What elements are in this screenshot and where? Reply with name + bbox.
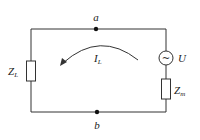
node-a-label: a xyxy=(93,11,99,23)
node-b-label: b xyxy=(94,119,100,131)
tilde-glyph: ~ xyxy=(162,53,170,64)
load-impedance xyxy=(27,61,36,81)
current-label: IL xyxy=(93,52,102,66)
arrowhead-icon xyxy=(60,58,67,66)
internal-impedance xyxy=(162,79,171,99)
internal-impedance-label: Zm xyxy=(174,84,185,98)
node-a xyxy=(94,27,98,31)
wires xyxy=(31,29,166,112)
load-impedance-label: ZL xyxy=(8,65,18,79)
node-b xyxy=(95,110,99,114)
circuit-diagram: ZL ~ U Zm a b IL xyxy=(0,0,200,140)
source-label: U xyxy=(178,52,187,64)
